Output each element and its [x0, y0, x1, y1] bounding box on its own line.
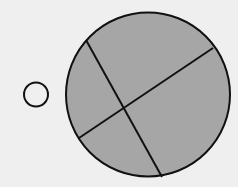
- small-hollow-circle: [24, 83, 48, 107]
- diagram-canvas: [0, 0, 238, 187]
